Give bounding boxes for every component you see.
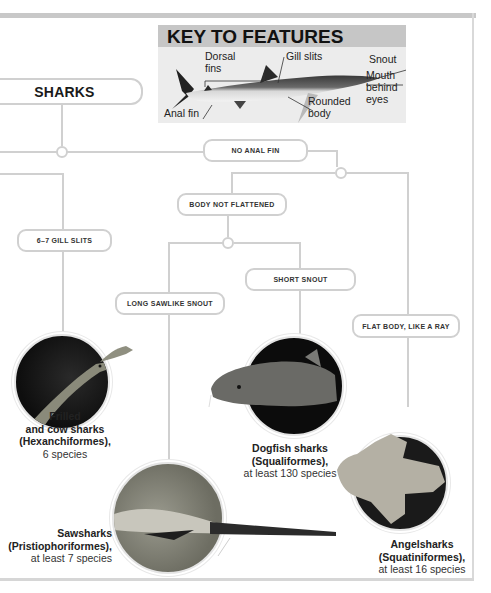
caption-frilled-line1: Frilled: [10, 410, 120, 423]
connector-long-to-saw: [168, 314, 170, 462]
connector-noanal-down: [336, 150, 338, 167]
key-header: KEY TO FEATURES: [158, 25, 406, 47]
caption-saw-order: (Pristiophoriformes),: [0, 540, 112, 553]
connector-main-horizontal: [0, 151, 205, 153]
caption-dogfish-count: at least 130 species: [235, 467, 345, 480]
connector-noanal-right: [306, 150, 336, 152]
junction-node-body: [222, 237, 234, 249]
sawshark-photo: [112, 462, 224, 574]
label-mouth-line2: behind: [366, 81, 398, 93]
label-gill-slits: Gill slits: [286, 50, 322, 62]
bottom-rule: [0, 578, 474, 581]
page-edge-rule: [472, 13, 474, 578]
angelshark-icon: [335, 432, 447, 527]
connector-to-body-not-flattened: [231, 172, 233, 194]
key-to-features-panel: KEY TO FEATURES Dorsal fi: [158, 25, 406, 123]
caption-dogfish-name: Dogfish sharks: [235, 442, 345, 455]
node-gill-slits: 6–7 GILL SLITS: [17, 229, 112, 252]
connector-short-to-dogfish: [299, 290, 301, 336]
label-body-line1: Rounded: [308, 95, 351, 107]
caption-angel-order: (Squatiniformes),: [370, 551, 474, 564]
label-mouth-behind-eyes: Mouth behind eyes: [366, 69, 398, 105]
junction-node-root: [56, 146, 68, 158]
caption-frilled-count: 6 species: [10, 448, 120, 461]
label-snout: Snout: [369, 53, 396, 65]
connector-to-short-snout: [299, 242, 301, 269]
connector-flat-to-angel: [407, 337, 409, 407]
label-mouth-line3: eyes: [366, 93, 388, 105]
label-dorsal-line2: fins: [205, 62, 221, 74]
connector-left-branch: [0, 173, 62, 175]
label-mouth-line1: Mouth: [366, 69, 395, 81]
label-rounded-body: Rounded body: [308, 95, 351, 119]
connector-gill-to-frilled: [62, 251, 64, 334]
caption-frilled-order: (Hexanchiformes),: [10, 435, 120, 448]
label-dorsal-line1: Dorsal: [205, 50, 235, 62]
label-dorsal-fins: Dorsal fins: [205, 50, 235, 74]
sawshark-snout-icon: [210, 518, 338, 558]
connector-split3-left: [168, 242, 223, 244]
connector-bnf-down: [227, 215, 229, 237]
caption-angelsharks: Angelsharks (Squatiniformes), at least 1…: [370, 538, 474, 576]
connector-split3-right: [234, 242, 300, 244]
caption-sawsharks: Sawsharks (Pristiophoriformes), at least…: [0, 527, 112, 565]
label-body-line2: body: [308, 107, 331, 119]
node-long-sawlike-snout: LONG SAWLIKE SNOUT: [115, 292, 225, 315]
connector-to-gill-slits: [62, 173, 64, 230]
node-no-anal-fin: NO ANAL FIN: [203, 139, 308, 162]
caption-dogfish-order: (Squaliformes),: [235, 455, 345, 468]
junction-node-no-anal: [335, 167, 347, 179]
connector-to-flat-body: [407, 172, 409, 315]
key-title: KEY TO FEATURES: [167, 26, 343, 48]
top-rule: [0, 13, 476, 18]
connector-split2-left: [231, 172, 335, 174]
label-anal-fin: Anal fin: [164, 107, 199, 119]
caption-saw-name: Sawsharks: [0, 527, 112, 540]
frilled-shark-head-icon: [100, 342, 134, 366]
node-body-not-flattened: BODY NOT FLATTENED: [177, 193, 287, 216]
caption-angel-name: Angelsharks: [370, 538, 474, 551]
caption-frilled-line2: and cow sharks: [10, 423, 120, 436]
caption-angel-count: at least 16 species: [370, 563, 474, 576]
dogfish-shark-icon: [205, 345, 345, 425]
caption-saw-count: at least 7 species: [0, 552, 112, 565]
node-sharks: SHARKS: [0, 78, 143, 105]
caption-dogfish-sharks: Dogfish sharks (Squaliformes), at least …: [235, 442, 345, 480]
connector-to-long-snout: [168, 242, 170, 293]
connector-split2-right: [346, 172, 408, 174]
sawshark-body-icon: [114, 464, 224, 574]
caption-frilled-sharks: Frilled and cow sharks (Hexanchiformes),…: [10, 410, 120, 460]
node-short-snout: SHORT SNOUT: [245, 268, 356, 291]
node-flat-body: FLAT BODY, LIKE A RAY: [352, 314, 460, 338]
connector-root-down: [61, 104, 63, 146]
